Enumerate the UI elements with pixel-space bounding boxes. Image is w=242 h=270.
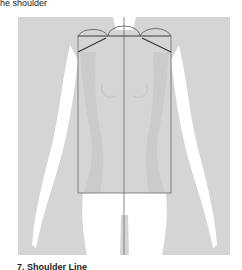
body-diagram (0, 0, 242, 270)
caption-bottom: 7. Shoulder Line (17, 262, 87, 270)
